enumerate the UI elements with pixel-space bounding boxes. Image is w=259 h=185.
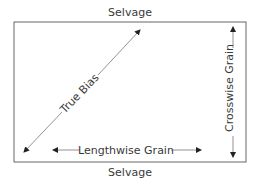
top-selvage-label: Selvage <box>108 6 152 19</box>
bias-arrow-upper <box>98 30 140 75</box>
fabric-outline <box>14 22 246 162</box>
lengthwise-grain-label: Lengthwise Grain <box>78 144 174 157</box>
fabric-grain-diagram: Selvage Selvage True Bias Lengthwise Gra… <box>0 0 259 185</box>
bias-arrow-lower <box>24 112 62 152</box>
crosswise-grain-label: Crosswise Grain <box>223 44 236 132</box>
bottom-selvage-label: Selvage <box>108 166 152 179</box>
true-bias-label: True Bias <box>57 71 102 117</box>
